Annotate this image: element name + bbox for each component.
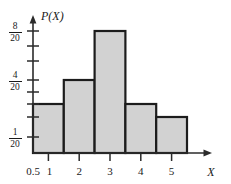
- x-ticks: [48, 153, 171, 161]
- bar-1: [33, 104, 64, 153]
- y-tick-label-4-20-denominator: 20: [4, 83, 26, 93]
- y-tick-label-4-20-numerator: 4: [4, 71, 26, 81]
- bar-2: [64, 80, 95, 153]
- y-tick-label-1-20-denominator: 20: [4, 140, 26, 150]
- x-tick-label-4: 4: [138, 165, 144, 177]
- bar-3: [95, 31, 126, 153]
- y-tick-label-8-20-numerator: 8: [4, 22, 26, 32]
- histogram-plot: 0.5 1 2 3 4 5 P(X) X: [0, 0, 231, 184]
- y-tick-label-4-20: 4 20: [4, 71, 26, 92]
- x-tick-label-3: 3: [107, 165, 113, 177]
- x-tick-label-2: 2: [76, 165, 82, 177]
- y-axis-arrowhead: [30, 15, 37, 24]
- bar-4: [125, 104, 156, 153]
- y-tick-label-1-20: 1 20: [4, 128, 26, 149]
- x-tick-label-1: 1: [47, 165, 53, 177]
- x-axis-arrowhead: [204, 150, 213, 157]
- y-axis-title: P(X): [40, 9, 64, 23]
- x-tick-label-0: 0.5: [26, 165, 40, 177]
- histogram-figure: 0.5 1 2 3 4 5 P(X) X 8 20 4 20 1 20: [0, 0, 231, 184]
- y-tick-label-8-20-denominator: 20: [4, 34, 26, 44]
- bars-group: [33, 31, 187, 153]
- x-axis-title: X: [206, 165, 215, 179]
- y-tick-label-8-20: 8 20: [4, 22, 26, 43]
- y-tick-label-1-20-numerator: 1: [4, 128, 26, 138]
- bar-5: [156, 117, 187, 153]
- x-tick-label-5: 5: [169, 165, 175, 177]
